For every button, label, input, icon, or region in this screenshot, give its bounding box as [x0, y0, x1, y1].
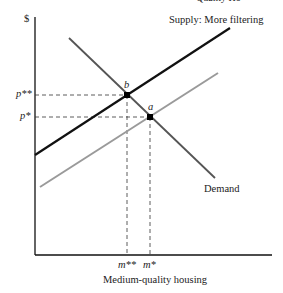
m-star-label: m* — [143, 259, 156, 270]
initial-supply-line — [40, 73, 218, 187]
demand-line — [69, 38, 215, 178]
point-b-label: b — [124, 79, 129, 90]
supply-demand-diagram — [0, 0, 283, 293]
y-axis-label: $ — [24, 13, 29, 24]
supply-more-filtering-line — [35, 28, 230, 155]
x-axis-label: Medium-quality housing — [103, 274, 207, 285]
p-star-star-label: p** — [16, 88, 32, 99]
header-fragment: Quality Ho — [196, 0, 241, 3]
point-a-label: a — [148, 101, 153, 112]
demand-label: Demand — [204, 183, 240, 194]
m-star-star-label: m** — [118, 259, 136, 270]
point-a-marker — [147, 114, 153, 120]
axes — [35, 17, 272, 255]
guide-lines — [35, 95, 150, 255]
point-b-marker — [124, 92, 130, 98]
p-star-label: p* — [20, 110, 31, 121]
supply-more-filtering-label: Supply: More filtering — [169, 14, 264, 25]
